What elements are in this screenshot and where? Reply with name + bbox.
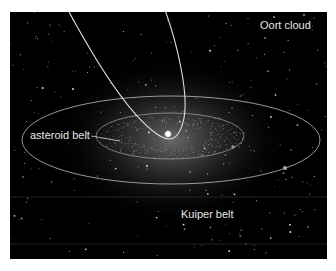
- star: [155, 107, 156, 108]
- asteroid: [113, 136, 114, 137]
- asteroid: [164, 148, 165, 149]
- asteroid: [169, 156, 170, 157]
- star: [294, 215, 295, 216]
- star: [246, 243, 247, 244]
- star: [240, 235, 242, 237]
- star: [137, 236, 138, 237]
- star: [135, 58, 136, 59]
- asteroid: [161, 120, 162, 121]
- asteroid: [216, 130, 217, 131]
- asteroid: [118, 129, 119, 130]
- asteroid: [195, 120, 196, 121]
- star: [37, 38, 38, 39]
- star: [315, 209, 316, 210]
- asteroid: [160, 148, 161, 149]
- asteroid: [135, 127, 136, 128]
- star: [266, 252, 267, 253]
- star: [214, 45, 215, 46]
- asteroid: [200, 154, 201, 155]
- asteroid: [119, 137, 120, 138]
- asteroid: [128, 143, 129, 144]
- asteroid: [151, 147, 152, 148]
- asteroid: [211, 144, 212, 145]
- asteroid: [230, 134, 231, 135]
- asteroid: [213, 153, 214, 154]
- asteroid: [197, 156, 198, 157]
- asteroid: [132, 143, 133, 144]
- star: [133, 60, 134, 61]
- star: [49, 24, 50, 25]
- star: [289, 224, 291, 226]
- star: [74, 178, 75, 179]
- star: [52, 40, 53, 41]
- asteroid: [151, 116, 152, 117]
- star: [250, 150, 251, 151]
- oort-cloud-label: Oort cloud: [260, 19, 311, 31]
- asteroid: [120, 151, 121, 152]
- asteroid: [168, 154, 169, 155]
- asteroid: [123, 122, 124, 123]
- star: [234, 193, 236, 195]
- asteroid: [142, 128, 143, 129]
- asteroid: [121, 149, 122, 150]
- asteroid: [229, 140, 230, 141]
- star: [68, 142, 69, 143]
- asteroid: [210, 133, 211, 134]
- asteroid: [181, 123, 182, 124]
- asteroid: [184, 155, 185, 156]
- asteroid: [100, 142, 101, 143]
- asteroid: [127, 123, 128, 124]
- asteroid: [128, 124, 129, 125]
- asteroid: [178, 149, 179, 150]
- asteroid: [132, 153, 133, 154]
- star: [289, 70, 290, 71]
- star: [254, 150, 255, 151]
- asteroid: [101, 138, 102, 139]
- asteroid: [199, 118, 200, 119]
- asteroid: [106, 145, 107, 146]
- asteroid: [188, 155, 189, 156]
- asteroid: [130, 137, 131, 138]
- asteroid: [149, 122, 150, 123]
- asteroid: [236, 140, 237, 141]
- asteroid: [187, 124, 188, 125]
- asteroid: [134, 151, 135, 152]
- asteroid: [197, 125, 198, 126]
- star: [312, 29, 313, 30]
- star: [87, 72, 88, 73]
- star: [31, 100, 32, 101]
- asteroid: [169, 119, 170, 120]
- star: [302, 182, 303, 183]
- asteroid: [120, 149, 121, 150]
- star: [207, 193, 209, 195]
- asteroid: [183, 157, 184, 158]
- star: [325, 116, 326, 117]
- asteroid: [192, 120, 193, 121]
- star: [60, 96, 61, 97]
- star: [75, 70, 76, 71]
- star: [278, 179, 279, 180]
- star: [221, 66, 222, 67]
- star: [321, 129, 322, 130]
- asteroid: [128, 130, 129, 131]
- asteroid: [137, 144, 138, 145]
- asteroid: [208, 120, 209, 121]
- asteroid: [132, 119, 133, 120]
- asteroid: [124, 144, 125, 145]
- asteroid: [197, 123, 198, 124]
- star: [85, 248, 87, 250]
- star: [310, 184, 311, 185]
- star: [137, 201, 138, 202]
- star: [226, 23, 227, 24]
- star: [110, 160, 111, 161]
- star: [35, 38, 36, 39]
- star: [229, 82, 230, 83]
- asteroid: [204, 145, 205, 146]
- star: [24, 163, 25, 164]
- star: [264, 54, 265, 55]
- asteroid: [112, 146, 113, 147]
- star: [145, 84, 147, 86]
- star: [300, 209, 301, 210]
- star: [27, 23, 28, 24]
- asteroid: [193, 123, 194, 124]
